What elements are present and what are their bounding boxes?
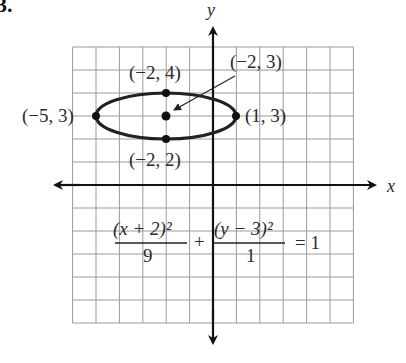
graph-figure: 3. x y (−2, 4) (−2, 3) (−5, 3: [0, 0, 406, 363]
label-center: (−2, 3): [230, 51, 282, 73]
point-top-vertex: [162, 89, 170, 97]
problem-number: 3.: [0, 0, 13, 18]
equation-rhs: = 1: [295, 232, 320, 253]
equation-term1-numerator: (x + 2)²: [113, 218, 172, 240]
equation-term2-numerator: (y − 3)²: [214, 218, 273, 240]
label-top-vertex: (−2, 4): [129, 62, 181, 84]
label-left-vertex: (−5, 3): [22, 105, 74, 127]
point-right-vertex: [232, 112, 240, 120]
x-axis-label: x: [386, 176, 395, 196]
point-center: [162, 112, 171, 121]
point-bottom-vertex: [162, 135, 170, 143]
label-right-vertex: (1, 3): [245, 105, 286, 127]
equation-plus: +: [194, 231, 205, 252]
ellipse-equation: (x + 2)² 9 + (y − 3)² 1 = 1: [112, 215, 332, 266]
equation-term2-denominator: 1: [246, 245, 256, 266]
label-bottom-vertex: (−2, 2): [129, 149, 181, 171]
equation-term1-denominator: 9: [143, 245, 153, 266]
y-axis-label: y: [205, 0, 215, 20]
point-left-vertex: [92, 112, 100, 120]
